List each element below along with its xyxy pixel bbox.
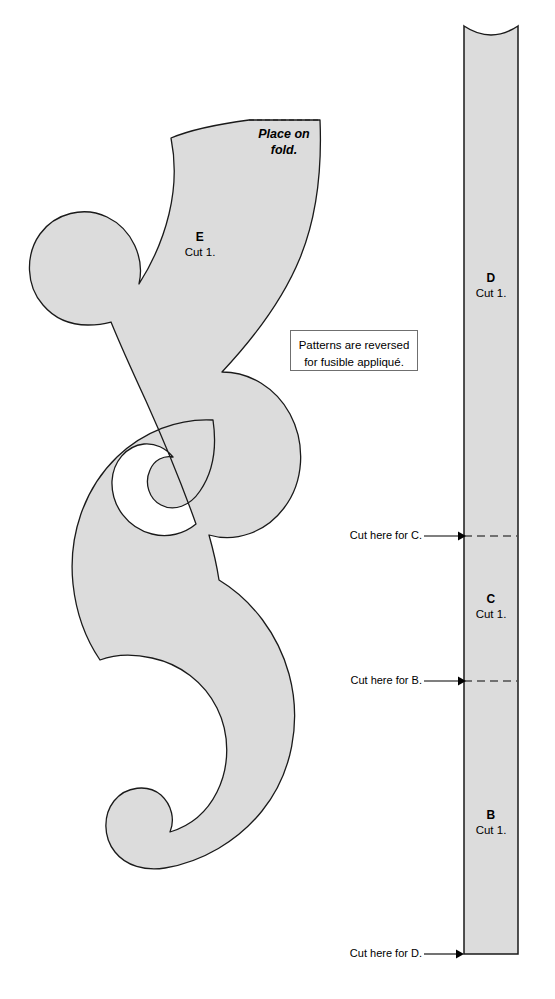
fusible-applique-note: Patterns are reversed for fusible appliq… [290, 330, 418, 371]
piece-b-cut: Cut 1. [459, 823, 523, 837]
place-on-fold-line1: Place on [253, 126, 315, 142]
cut-note-for-c: Cut here for C. [304, 529, 422, 541]
piece-label-d: D Cut 1. [459, 271, 523, 300]
piece-label-e: E Cut 1. [168, 230, 232, 259]
place-on-fold-label: Place on fold. [253, 126, 315, 159]
piece-label-c: C Cut 1. [459, 592, 523, 621]
piece-d-letter: D [459, 271, 523, 286]
cut-leader-b [424, 677, 466, 686]
piece-d-cut: Cut 1. [459, 286, 523, 300]
pattern-page: Place on fold. E Cut 1. Patterns are rev… [0, 0, 555, 999]
piece-e-letter: E [168, 230, 232, 245]
note-line1: Patterns are reversed [298, 337, 410, 354]
piece-label-b: B Cut 1. [459, 808, 523, 837]
cut-leader-c [424, 532, 466, 541]
piece-c-cut: Cut 1. [459, 607, 523, 621]
cut-note-for-b: Cut here for B. [304, 674, 422, 686]
place-on-fold-line2: fold. [253, 142, 315, 158]
cut-note-for-d: Cut here for D. [304, 947, 422, 959]
cut-leader-d [424, 950, 464, 959]
piece-b-letter: B [459, 808, 523, 823]
piece-c-letter: C [459, 592, 523, 607]
piece-e-cut: Cut 1. [168, 245, 232, 259]
note-line2: for fusible appliqué. [298, 354, 410, 371]
